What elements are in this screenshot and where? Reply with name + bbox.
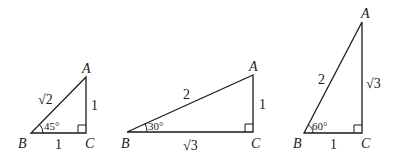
side-label-bc: √3 [183, 138, 198, 153]
side-label-ab: √2 [38, 92, 53, 107]
right-angle-mark [245, 124, 253, 132]
vertex-label-b: B [18, 136, 27, 151]
vertex-label-c: C [251, 136, 261, 151]
angle-arc [145, 124, 147, 132]
special-right-triangles-diagram: A B C √2 1 1 45° A B C 2 1 √3 30° A [0, 0, 401, 158]
side-label-ac: 1 [91, 98, 98, 113]
triangle-3-outline [304, 22, 362, 133]
vertex-label-a: A [360, 6, 370, 21]
angle-label-b: 30° [148, 120, 163, 132]
side-label-ab: 2 [183, 87, 190, 102]
triangle-30-60-90-flat: A B C 2 1 √3 30° [121, 59, 266, 153]
vertex-label-c: C [85, 136, 95, 151]
vertex-label-b: B [121, 136, 130, 151]
triangle-45-45-90: A B C √2 1 1 45° [18, 61, 98, 152]
triangle-2-outline [127, 75, 253, 132]
angle-label-b: 45° [44, 120, 59, 132]
angle-label-b: 60° [312, 120, 327, 132]
side-label-ab: 2 [318, 72, 325, 87]
side-label-ac: √3 [366, 76, 381, 91]
angle-arc [39, 124, 43, 133]
vertex-label-a: A [248, 59, 258, 74]
right-angle-mark [354, 125, 362, 133]
side-label-bc: 1 [330, 137, 337, 152]
side-label-ac: 1 [259, 97, 266, 112]
vertex-label-b: B [293, 136, 302, 151]
vertex-label-c: C [361, 136, 371, 151]
vertex-label-a: A [81, 61, 91, 76]
side-label-bc: 1 [55, 137, 62, 152]
triangle-30-60-90-tall: A B C 2 √3 1 60° [293, 6, 381, 152]
right-angle-mark [78, 125, 86, 133]
